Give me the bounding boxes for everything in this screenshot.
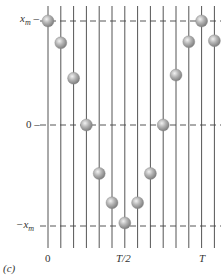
ball-marker xyxy=(132,197,144,209)
x-label-zero: 0 xyxy=(45,252,51,264)
x-label-half-period: T/2 xyxy=(116,252,131,264)
y-label-zero: 0 – xyxy=(26,118,40,130)
ball-marker xyxy=(170,69,182,81)
ball-marker xyxy=(119,217,131,229)
panel-label: (c) xyxy=(3,262,15,274)
ball-marker xyxy=(157,119,169,131)
ball-marker xyxy=(68,72,80,84)
x-label-period: T xyxy=(199,252,205,264)
ball-marker xyxy=(55,37,67,49)
ball-marker xyxy=(144,167,156,179)
ball-marker xyxy=(80,119,92,131)
ball-positions xyxy=(42,15,220,229)
y-label-xm: xm – xyxy=(20,12,39,27)
oscillation-diagram xyxy=(0,0,221,275)
ball-marker xyxy=(93,167,105,179)
ball-marker xyxy=(208,35,220,47)
ball-marker xyxy=(196,15,208,27)
reference-dashes xyxy=(40,21,221,226)
ball-marker xyxy=(42,15,54,27)
y-label-neg-xm: −xm xyxy=(16,218,34,233)
ball-marker xyxy=(183,36,195,48)
ball-marker xyxy=(106,197,118,209)
